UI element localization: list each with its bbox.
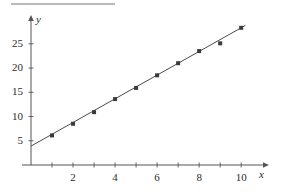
y-axis-tick-label: 15 — [0, 85, 23, 97]
data-point-marker — [92, 110, 96, 114]
chart-figure: 246810 510152025 x y — [0, 0, 285, 192]
scatter-plot-canvas — [0, 0, 285, 192]
data-point-marker — [134, 86, 138, 90]
y-axis-tick-label: 25 — [0, 37, 23, 49]
axes-group — [22, 15, 269, 168]
data-point-marker — [239, 26, 243, 30]
x-axis-arrow-icon — [263, 162, 269, 168]
data-point-marker — [50, 133, 54, 137]
fitted-regression-line — [31, 25, 245, 146]
x-axis-tick-label: 8 — [185, 171, 213, 183]
data-point-marker — [155, 73, 159, 77]
regression-line — [31, 25, 245, 146]
y-axis-tick-label: 10 — [0, 110, 23, 122]
x-axis-tick-label: 10 — [227, 171, 255, 183]
data-point-marker — [71, 122, 75, 126]
x-axis-tick-label: 2 — [59, 171, 87, 183]
y-axis-label: y — [36, 13, 41, 25]
data-point-marker — [197, 49, 201, 53]
y-axis-arrow-icon — [28, 15, 34, 21]
y-axis-tick-label: 5 — [0, 134, 23, 146]
x-axis-label: x — [259, 168, 264, 180]
data-point-marker — [113, 97, 117, 101]
data-point-marker — [176, 61, 180, 65]
data-point-marker — [218, 41, 222, 45]
x-axis-tick-label: 6 — [143, 171, 171, 183]
y-axis-tick-label: 20 — [0, 61, 23, 73]
x-axis-tick-label: 4 — [101, 171, 129, 183]
